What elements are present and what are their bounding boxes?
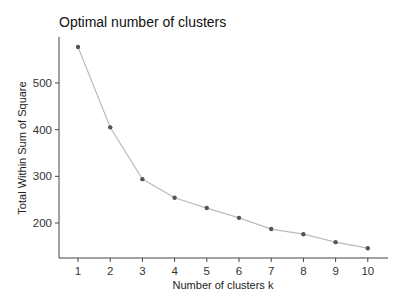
x-axis: 12345678910 Number of clusters k [59,258,388,291]
data-point [108,125,112,129]
y-tick-label: 400 [33,124,52,136]
series-line [78,47,368,248]
data-point [237,216,241,220]
x-tick-label: 1 [75,265,81,277]
x-tick-label: 9 [332,265,338,277]
y-axis-title: Total Within Sum of Square [16,81,28,214]
y-tick-label: 200 [33,217,52,229]
data-point [76,45,80,49]
x-tick-label: 2 [107,265,113,277]
x-tick-label: 4 [171,265,178,277]
x-tick-label: 8 [300,265,306,277]
x-tick-label: 7 [268,265,274,277]
data-point [205,206,209,210]
x-tick-label: 5 [204,265,210,277]
plot-area [76,45,370,251]
data-point [140,177,144,181]
x-ticks: 12345678910 [75,258,374,277]
chart-title: Optimal number of clusters [59,14,226,30]
data-points [76,45,370,251]
x-axis-title: Number of clusters k [173,279,274,291]
y-ticks: 200300400500 [33,77,59,229]
y-axis: 200300400500 Total Within Sum of Square [16,37,59,258]
x-tick-label: 10 [361,265,374,277]
x-tick-label: 6 [236,265,242,277]
y-tick-label: 500 [33,77,52,89]
elbow-chart: Optimal number of clusters 200300400500 … [0,0,404,307]
data-point [172,196,176,200]
data-point [333,240,337,244]
data-point [269,227,273,231]
y-tick-label: 300 [33,170,52,182]
data-point [301,232,305,236]
data-point [366,246,370,250]
x-tick-label: 3 [139,265,145,277]
